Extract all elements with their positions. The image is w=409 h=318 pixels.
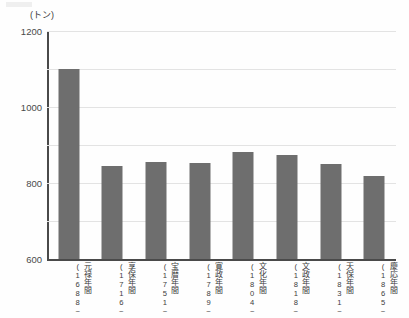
x-axis-label: 元禄年間(1688~1704年)	[47, 262, 91, 318]
x-axis-label: 享保年間(1716~1736年)	[91, 262, 135, 318]
page-edge-artifact	[6, 2, 32, 7]
y-axis-unit-label: (トン)	[30, 8, 54, 21]
bar-slot	[134, 31, 178, 259]
bar[interactable]	[189, 163, 210, 259]
x-axis-label-years: (1818~1830年)	[291, 262, 299, 318]
y-axis-tick-label: 800	[26, 178, 42, 189]
bar[interactable]	[364, 176, 385, 259]
x-axis-label-years: (1789~1801年)	[204, 262, 212, 318]
x-axis-label: 天保年間(1831~1845年)	[309, 262, 353, 318]
x-axis-label-years: (1751~1764年)	[160, 262, 168, 318]
x-axis-label-years: (1865~1868年)	[378, 262, 386, 318]
y-axis-tick-label: 1000	[21, 102, 42, 113]
y-axis-tick-label: 1200	[21, 26, 42, 37]
bar[interactable]	[276, 155, 297, 259]
bar-series	[47, 31, 396, 259]
bar-slot	[265, 31, 309, 259]
x-axis-label: 寛政年間(1789~1801年)	[178, 262, 222, 318]
x-axis-label-years: (1804~1818年)	[247, 262, 255, 318]
x-axis-label-era: 文化年間	[257, 262, 265, 294]
y-axis-tick-label: 600	[26, 254, 42, 265]
bar-slot	[178, 31, 222, 259]
bar-slot	[91, 31, 135, 259]
x-axis-label-years: (1831~1845年)	[335, 262, 343, 318]
x-axis-label: 文化年間(1804~1818年)	[222, 262, 266, 318]
x-axis-label-era: 天保年間	[344, 262, 352, 294]
bar-slot	[47, 31, 91, 259]
x-axis-label-era: 享保年間	[126, 262, 134, 294]
bar[interactable]	[102, 166, 123, 259]
bar-slot	[309, 31, 353, 259]
bar-slot	[352, 31, 396, 259]
x-axis-label-years: (1716~1736年)	[116, 262, 124, 318]
x-axis-label-era: 元禄年間	[82, 262, 90, 294]
gridline: 0	[47, 259, 396, 260]
x-axis-label-years: (1688~1704年)	[73, 262, 81, 318]
x-axis-label-era: 文政年間	[300, 262, 308, 294]
x-axis-label-era: 慶応年間	[388, 262, 396, 294]
x-axis-label-era: 宝暦年間	[169, 262, 177, 294]
bar-chart: (トン) 020040060080010001200 元禄年間(1688~170…	[0, 0, 409, 318]
bar[interactable]	[320, 164, 341, 259]
x-axis-label: 慶応年間(1865~1868年)	[352, 262, 396, 318]
x-axis-label: 宝暦年間(1751~1764年)	[134, 262, 178, 318]
x-axis-labels: 元禄年間(1688~1704年)享保年間(1716~1736年)宝暦年間(175…	[47, 262, 396, 318]
bar[interactable]	[58, 69, 79, 259]
bar-slot	[222, 31, 266, 259]
x-axis-label: 文政年間(1818~1830年)	[265, 262, 309, 318]
bar[interactable]	[233, 152, 254, 259]
bar[interactable]	[146, 162, 167, 259]
x-axis-label-era: 寛政年間	[213, 262, 221, 294]
plot-area: 020040060080010001200	[47, 31, 396, 259]
